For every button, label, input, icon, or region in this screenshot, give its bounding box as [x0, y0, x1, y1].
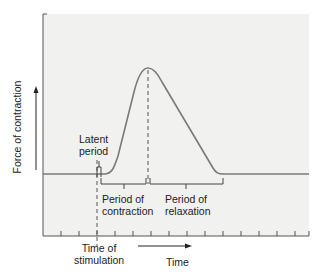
x-axis-ticks	[61, 231, 309, 236]
y-axis-label: Force of contraction	[11, 81, 23, 174]
relaxation-bracket	[150, 178, 223, 189]
latent-period-label: Latent period	[79, 133, 108, 157]
contraction-bracket	[101, 178, 146, 189]
twitch-diagram	[0, 0, 324, 276]
twitch-curve	[43, 68, 309, 174]
stimulation-label: Time of stimulation	[74, 242, 124, 266]
x-axis-label: Time	[166, 256, 189, 268]
contraction-period-label: Period of contraction	[102, 193, 153, 217]
relaxation-period-label: Period of relaxation	[165, 193, 211, 217]
